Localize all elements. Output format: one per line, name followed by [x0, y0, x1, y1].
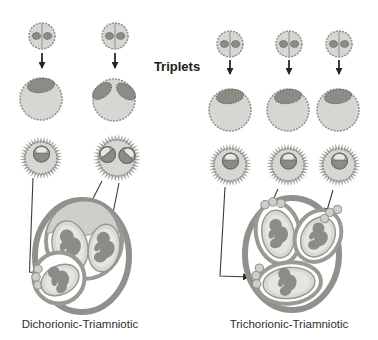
chorionic-vesicle-single	[318, 144, 361, 187]
zygote-icon	[217, 31, 243, 57]
blastocyst-one-icm	[267, 88, 309, 131]
blastocyst-one-icm	[209, 88, 251, 131]
chorionic-vesicle-twin	[93, 134, 141, 182]
blastocyst-one-icm	[317, 88, 359, 131]
chorionic-vesicle-single	[209, 144, 252, 187]
uterus-trichorionic	[245, 197, 351, 310]
trichorionic-panel: Trichorionic-Triamniotic	[209, 31, 361, 330]
blastocyst-two-icm	[89, 79, 138, 121]
uterus-dichorionic	[32, 200, 129, 312]
trichorionic-label: Trichorionic-Triamniotic	[230, 318, 349, 330]
dichorionic-panel: Dichorionic-Triamniotic	[20, 23, 141, 330]
chorionic-vesicle-single	[267, 144, 310, 187]
dichorionic-label: Dichorionic-Triamniotic	[22, 318, 139, 330]
blastocyst-one-icm	[20, 77, 62, 120]
zygote-icon	[29, 23, 55, 49]
chorionic-vesicle-single	[20, 137, 63, 180]
zygote-icon	[276, 31, 302, 57]
triplets-diagram: Dichorionic-Triamniotic	[0, 0, 378, 340]
diagram-canvas: Dichorionic-Triamniotic	[0, 0, 378, 340]
diagram-title: Triplets	[154, 59, 200, 74]
zygote-icon	[326, 31, 352, 57]
zygote-icon	[102, 23, 128, 49]
